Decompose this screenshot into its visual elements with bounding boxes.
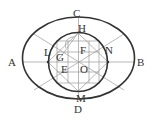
geometry-diagram: A B C D H L N F G E O M [0, 0, 154, 120]
point-L [47, 61, 49, 63]
label-B: B [137, 56, 144, 68]
label-F: F [80, 44, 86, 56]
label-O: O [80, 63, 88, 75]
label-C: C [73, 7, 80, 19]
small-arc-G [65, 37, 74, 48]
label-D: D [74, 103, 82, 115]
label-N: N [105, 44, 113, 56]
diagram-canvas: A B C D H L N F G E O M [0, 0, 154, 120]
point-N [107, 61, 109, 63]
label-H: H [78, 22, 86, 34]
label-L: L [44, 46, 51, 58]
label-M: M [76, 92, 86, 104]
point-labels: A B C D H L N F G E O M [8, 7, 144, 115]
label-A: A [8, 56, 16, 68]
label-G: G [56, 51, 64, 63]
label-E: E [61, 63, 68, 75]
